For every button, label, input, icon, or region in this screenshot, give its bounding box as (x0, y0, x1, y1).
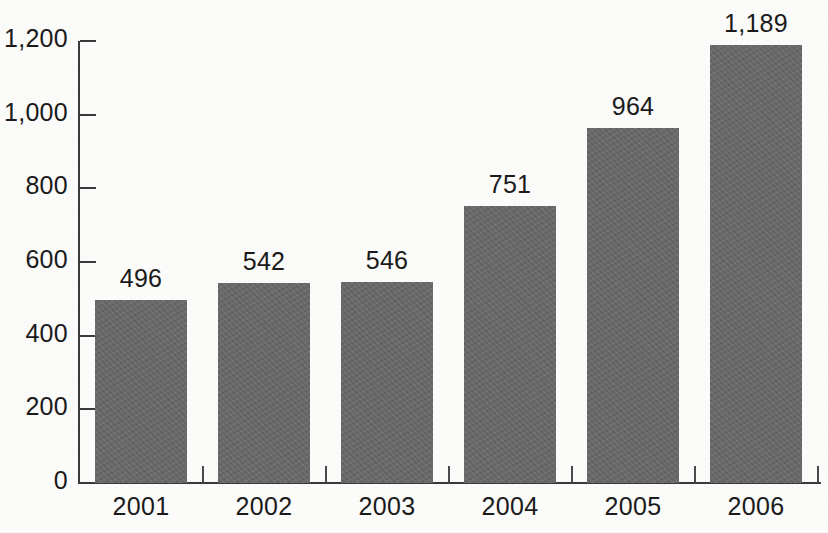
x-axis-tick-label: 2004 (464, 492, 556, 521)
bar-value-label: 496 (81, 264, 201, 293)
x-axis-tick (571, 466, 573, 483)
y-axis-tick-label: 1,200 (0, 24, 68, 53)
y-axis-tick-label: 800 (0, 171, 68, 200)
x-axis-tick-label: 2003 (341, 492, 433, 521)
x-axis-tick-label: 2001 (95, 492, 187, 521)
bar-2005[interactable] (587, 128, 679, 483)
x-axis-tick (325, 466, 327, 483)
y-axis-tick-label: 0 (0, 466, 68, 495)
x-axis-tick (448, 466, 450, 483)
bar-value-label: 1,189 (696, 9, 816, 38)
bar-value-label: 546 (327, 246, 447, 275)
y-axis-tick-label: 1,000 (0, 98, 68, 127)
y-axis-tick (80, 482, 96, 484)
bar-2004[interactable] (464, 206, 556, 483)
x-axis-tick-label: 2002 (218, 492, 310, 521)
y-axis-tick (80, 40, 96, 42)
bar-2001[interactable] (95, 300, 187, 483)
y-axis-tick-label: 200 (0, 392, 68, 421)
y-axis-tick (80, 187, 96, 189)
chart-page: 02004006008001,0001,200 2001200220032004… (0, 0, 828, 533)
y-axis-tick-label: 600 (0, 245, 68, 274)
x-axis-tick (817, 466, 819, 483)
y-axis-tick (80, 261, 96, 263)
x-axis-tick (694, 466, 696, 483)
x-axis-tick (202, 466, 204, 483)
y-axis-tick (80, 114, 96, 116)
bar-value-label: 542 (204, 247, 324, 276)
bar-2003[interactable] (341, 282, 433, 483)
y-axis-tick (80, 335, 96, 337)
x-axis-tick-label: 2006 (710, 492, 802, 521)
y-axis-tick-label: 400 (0, 319, 68, 348)
bar-chart: 02004006008001,0001,200 2001200220032004… (0, 0, 828, 533)
bar-2002[interactable] (218, 283, 310, 483)
x-axis-tick-label: 2005 (587, 492, 679, 521)
bar-value-label: 964 (573, 92, 693, 121)
bar-value-label: 751 (450, 170, 570, 199)
y-axis-tick (80, 408, 96, 410)
bar-2006[interactable] (710, 45, 802, 483)
